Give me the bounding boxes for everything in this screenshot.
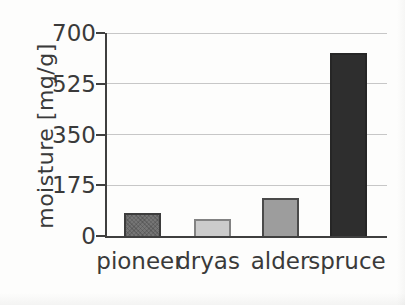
y-tick-mark-0 [96, 235, 105, 237]
bar-dryas [194, 219, 231, 236]
y-tick-label-525: 525 [0, 73, 96, 96]
y-tick-label-0: 0 [0, 225, 96, 248]
x-category-label-pioneer: pioneer [96, 248, 183, 274]
y-tick-label-175: 175 [0, 174, 96, 197]
bar-spruce [330, 53, 367, 236]
y-tick-mark-350 [96, 134, 105, 136]
plot-area [105, 33, 387, 238]
x-category-label-spruce: spruce [308, 248, 385, 274]
y-tick-mark-525 [96, 83, 105, 85]
x-category-label-dryas: dryas [176, 248, 240, 274]
y-tick-mark-175 [96, 184, 105, 186]
x-category-label-alder: alder [251, 248, 310, 274]
y-tick-label-700: 700 [0, 22, 96, 45]
gridline-700 [107, 33, 387, 34]
bar-chart-figure: moisture [mg/g] 0175350525700 pioneerdry… [0, 0, 405, 305]
y-tick-label-350: 350 [0, 124, 96, 147]
bar-pioneer [124, 213, 161, 236]
y-tick-mark-700 [96, 32, 105, 34]
bar-alder [262, 198, 299, 236]
